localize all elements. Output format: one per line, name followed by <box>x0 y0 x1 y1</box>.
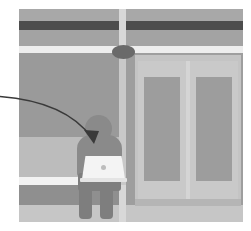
door-window-left <box>144 77 180 181</box>
door-threshold <box>135 199 241 206</box>
wall-band-dark-stripe <box>19 21 243 30</box>
laptop-logo-icon <box>101 165 106 170</box>
subway-platform-scene <box>19 9 243 222</box>
door-center-mullion <box>186 61 190 199</box>
door-window-right <box>196 77 232 181</box>
wall-band-upper <box>19 9 243 21</box>
wall-band-mid <box>19 30 243 46</box>
floor-band-light <box>19 205 243 222</box>
illustration-canvas <box>0 0 251 231</box>
person-leg-left <box>79 187 92 219</box>
person-leg-right <box>100 187 113 219</box>
laptop-base <box>80 178 127 182</box>
ceiling-fixture-icon <box>112 45 135 59</box>
